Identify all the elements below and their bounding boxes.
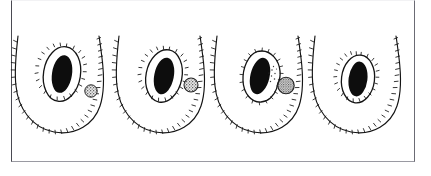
panel-2-particle-contacting (112, 36, 204, 134)
cell-sequence-illustration (0, 0, 431, 176)
panel-1-particle-approaching (11, 36, 103, 134)
panel-4-particle-incorporated (308, 36, 400, 134)
figure-root: Sequence of a particle being taken into … (0, 0, 431, 176)
panel-3-particle-merging (210, 36, 302, 134)
